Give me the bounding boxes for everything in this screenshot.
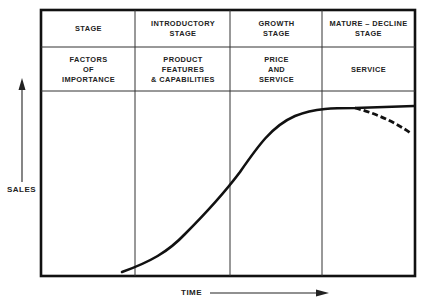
factor-mature-decline: SERVICE <box>323 48 414 91</box>
y-axis-label: SALES <box>7 185 36 194</box>
sales-curve <box>122 106 414 272</box>
time-arrow-icon <box>210 290 329 297</box>
decline-curve-dashed <box>355 108 412 134</box>
stage-mature-decline: MATURE – DECLINE STAGE <box>323 11 414 47</box>
stage-row-label: STAGE <box>42 11 135 47</box>
sales-arrow-icon <box>19 78 26 182</box>
factor-growth: PRICE AND SERVICE <box>231 48 322 91</box>
x-axis-label: TIME <box>181 288 202 297</box>
stage-growth: GROWTH STAGE <box>231 11 322 47</box>
factor-introductory: PRODUCT FEATURES & CAPABILITIES <box>136 48 230 91</box>
stage-introductory: INTRODUCTORY STAGE <box>136 11 230 47</box>
product-lifecycle-diagram: STAGE INTRODUCTORY STAGE GROWTH STAGE MA… <box>0 0 425 302</box>
factors-row-label: FACTORS OF IMPORTANCE <box>42 48 135 91</box>
